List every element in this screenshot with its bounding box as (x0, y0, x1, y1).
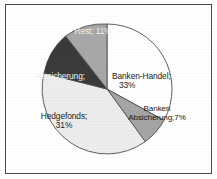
pie-chart-plot-area: Banken-Handel; 33% Banken Absicherung;7%… (0, 0, 217, 179)
pie-label-hedgefonds-value: 31% (22, 121, 106, 130)
pie-label-banken-absicherung-name: Banken (111, 104, 203, 113)
pie-label-banken-absicherung-value: Absicherung;7% (111, 113, 203, 122)
pie-label-versicherung-value: 18% (18, 81, 102, 90)
pie-label-versicherung: Versicherung; 18% (18, 72, 102, 91)
pie-label-hedgefonds: Hedgefonds; 31% (22, 112, 106, 131)
pie-label-banken-handel: Banken-Handel; 33% (112, 72, 188, 91)
pie-label-banken-absicherung: Banken Absicherung;7% (111, 104, 203, 122)
pie-label-rest-name: Rest; 11% (55, 27, 131, 36)
pie-label-banken-handel-value: 33% (112, 81, 188, 90)
pie-label-rest: Rest; 11% (55, 27, 131, 36)
pie-chart-figure: Banken-Handel; 33% Banken Absicherung;7%… (0, 0, 217, 179)
